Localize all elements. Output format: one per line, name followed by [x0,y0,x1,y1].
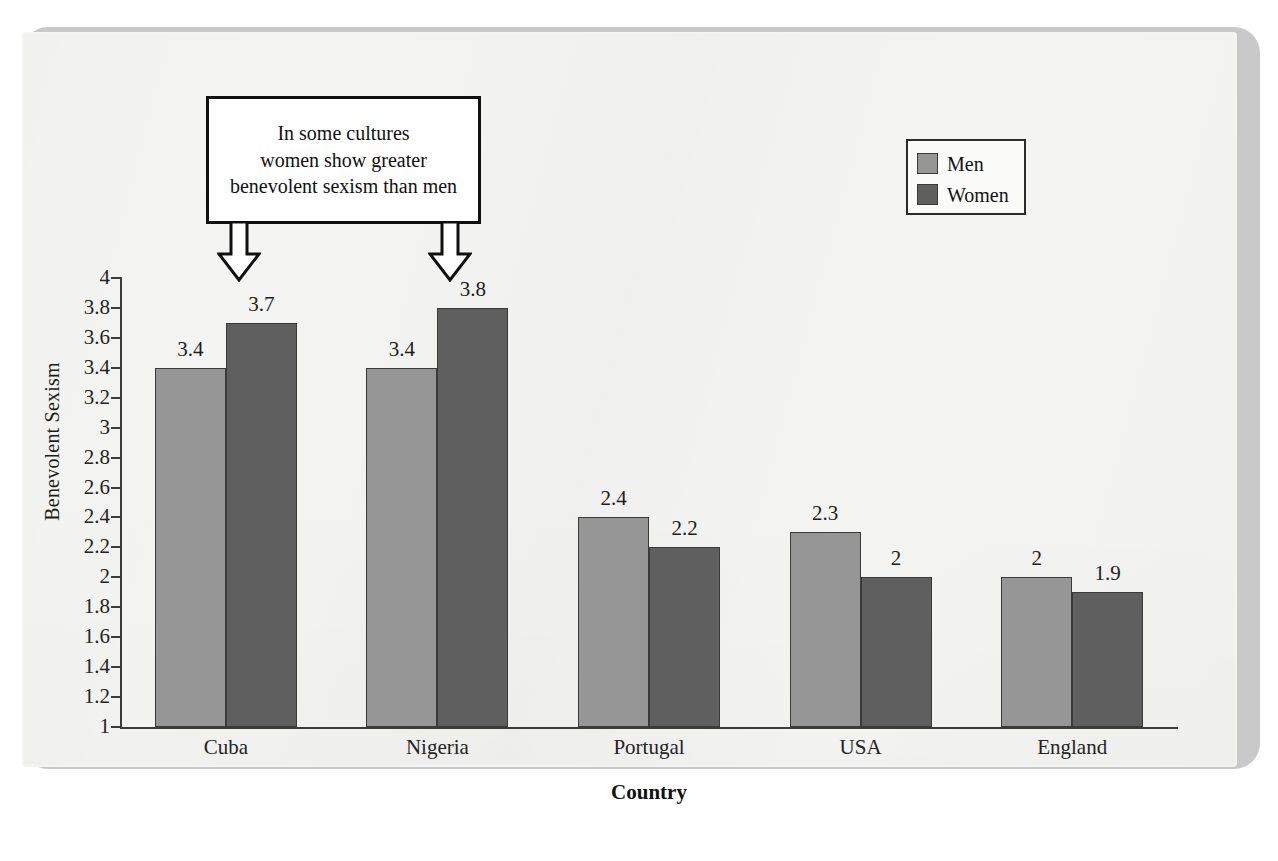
callout-down-arrow-left-icon [217,222,261,282]
y-axis-tick [111,487,120,489]
chart-legend: Men Women [906,139,1026,215]
y-axis-tick [111,516,120,518]
bar-cuba-women [226,323,297,727]
bar-value-label: 2 [1001,548,1072,569]
legend-entry-women: Women [917,179,1024,210]
callout-line-1: In some cultures [277,120,409,147]
legend-label-men: Men [947,154,984,174]
y-axis-tick [111,457,120,459]
y-axis-tick-label: 2 [50,566,110,587]
y-axis-tick [111,367,120,369]
bar-value-label: 3.4 [366,339,437,360]
y-axis-tick [111,606,120,608]
y-axis-tick-label: 3.2 [50,387,110,408]
bar-value-label: 2 [861,548,932,569]
callout-line-2: women show greater [260,147,427,174]
y-axis-tick [111,546,120,548]
y-axis-tick [111,307,120,309]
y-axis-tick [111,696,120,698]
bar-value-label: 3.8 [437,279,508,300]
y-axis-line [120,277,122,729]
x-axis-label-portugal: Portugal [543,735,755,760]
legend-swatch-women-icon [917,184,938,205]
bar-usa-men [790,532,861,727]
legend-label-women: Women [947,185,1009,205]
y-axis-tick [111,277,120,279]
bar-nigeria-women [437,308,508,727]
bar-portugal-men [578,517,649,727]
y-axis-tick-label: 3.6 [50,327,110,348]
bar-england-men [1001,577,1072,727]
y-axis-tick [111,337,120,339]
x-axis-line [120,727,1178,729]
y-axis-tick-label: 4 [50,267,110,288]
y-axis-tick-label: 3 [50,417,110,438]
y-axis-tick [111,636,120,638]
bar-value-label: 2.2 [649,518,720,539]
bar-portugal-women [649,547,720,727]
y-axis-tick-label: 1.8 [50,596,110,617]
y-axis-tick [111,726,120,728]
x-axis-label-cuba: Cuba [120,735,332,760]
x-axis-title: Country [120,780,1178,805]
bar-value-label: 3.7 [226,294,297,315]
y-axis-tick [111,427,120,429]
legend-entry-men: Men [917,148,1024,179]
y-axis-tick-label: 2.8 [50,447,110,468]
legend-swatch-men-icon [917,153,938,174]
y-axis-tick-label: 2.6 [50,477,110,498]
y-axis-tick-label: 3.8 [50,297,110,318]
y-axis-tick-label: 3.4 [50,357,110,378]
callout-line-3: benevolent sexism than men [230,173,457,200]
y-axis-tick-label: 2.2 [50,536,110,557]
bar-nigeria-men [366,368,437,727]
bar-chart: Benevolent Sexism Country 43.83.63.43.23… [0,0,1278,861]
x-axis-label-nigeria: Nigeria [332,735,544,760]
x-axis-label-usa: USA [755,735,967,760]
bar-england-women [1072,592,1143,727]
x-axis-label-england: England [966,735,1178,760]
y-axis-tick-label: 2.4 [50,506,110,527]
bar-cuba-men [155,368,226,727]
y-axis-tick [111,397,120,399]
y-axis-tick [111,576,120,578]
bar-value-label: 2.3 [790,503,861,524]
bar-value-label: 1.9 [1072,563,1143,584]
bar-value-label: 3.4 [155,339,226,360]
y-axis-tick-label: 1.6 [50,626,110,647]
y-axis-tick-label: 1.4 [50,656,110,677]
y-axis-tick-label: 1.2 [50,686,110,707]
callout-annotation-box: In some cultures women show greater bene… [206,96,481,224]
y-axis-tick [111,666,120,668]
bar-value-label: 2.4 [578,488,649,509]
y-axis-tick-label: 1 [50,716,110,737]
callout-down-arrow-right-icon [428,222,472,282]
bar-usa-women [861,577,932,727]
